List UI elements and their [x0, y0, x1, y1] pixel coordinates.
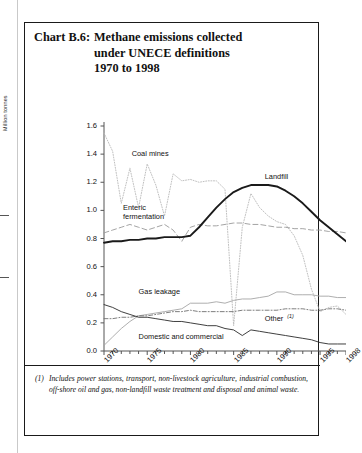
footnote-marker: (1)	[35, 374, 49, 395]
series-label-coal-mines: Coal mines	[132, 149, 169, 158]
chart-title-line-2: under UNECE definitions	[94, 46, 316, 62]
y-tick-label: 0.4	[73, 290, 97, 299]
series-label-domestic-and-commercial: Domestic and commercial	[139, 332, 224, 341]
series-line-enteric-fermentation	[104, 223, 346, 241]
x-tick-label: 1998	[344, 346, 362, 364]
y-axis-title: Million tonnes	[2, 41, 8, 131]
series-label-enteric-fermentation: Entericfermentation	[123, 203, 164, 221]
page-edge-rule	[17, 0, 18, 453]
footnote-divider	[25, 365, 320, 366]
y-tick-label: 0.8	[73, 234, 97, 243]
footnote-text: Includes power stations, transport, non-…	[49, 374, 308, 395]
chart-title-line-3: 1970 to 1998	[94, 61, 316, 77]
y-tick-label: 0.6	[73, 262, 97, 271]
page-edge-mark-upper	[0, 215, 9, 216]
series-label-landfill: Landfill	[265, 172, 288, 181]
chart-number: Chart B.6:	[34, 30, 94, 77]
chart-title-line-1: Methane emissions collected	[94, 30, 316, 46]
series-label-other: Other (1)	[265, 312, 294, 324]
y-tick-label: 1.2	[73, 177, 97, 186]
y-tick-label: 0.0	[73, 346, 97, 355]
series-label-gas-leakage: Gas leakage	[139, 287, 181, 296]
chart-title-block: Chart B.6: Methane emissions collected u…	[34, 30, 316, 77]
y-tick-label: 1.4	[73, 149, 97, 158]
chart-svg	[80, 101, 346, 355]
y-tick-label: 1.6	[73, 121, 97, 130]
chart-title-lines: Methane emissions collected under UNECE …	[94, 30, 316, 77]
chart-footnote: (1) Includes power stations, transport, …	[35, 374, 308, 395]
chart-plot-area: 0.00.20.40.60.81.01.21.41.61970197519801…	[80, 101, 346, 355]
y-tick-label: 0.2	[73, 318, 97, 327]
page-edge-mark-lower	[0, 277, 9, 278]
y-tick-label: 1.0	[73, 205, 97, 214]
chart-figure-box: Chart B.6: Methane emissions collected u…	[24, 22, 319, 436]
